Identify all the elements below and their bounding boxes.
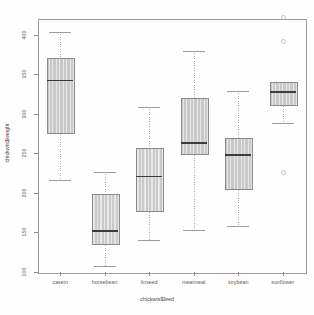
- whisker-cap-lower: [49, 180, 71, 181]
- whisker-lower: [149, 210, 150, 239]
- whisker-cap-upper: [138, 107, 160, 108]
- x-axis-tick: [105, 272, 106, 276]
- y-axis-tick: [34, 74, 38, 75]
- x-axis-tick-label-linseed: linseed: [126, 279, 172, 285]
- whisker-cap-lower: [183, 230, 205, 231]
- whisker-upper: [238, 91, 239, 138]
- y-axis-title: chickwts$weight: [4, 98, 10, 188]
- whisker-lower: [194, 153, 195, 230]
- whisker-upper: [149, 107, 150, 148]
- box-rect: [92, 194, 120, 245]
- whisker-cap-upper: [94, 172, 116, 173]
- box-rect: [47, 58, 75, 134]
- outlier-point: [281, 39, 286, 44]
- y-axis-tick: [34, 153, 38, 154]
- y-axis-tick-label: 200: [21, 183, 27, 203]
- outlier-point: [281, 15, 286, 20]
- y-axis-tick-label: 300: [21, 104, 27, 124]
- x-axis-tick: [283, 272, 284, 276]
- whisker-lower: [238, 188, 239, 226]
- whisker-cap-upper: [183, 51, 205, 52]
- whisker-lower: [60, 132, 61, 180]
- whisker-upper: [194, 51, 195, 98]
- y-axis-tick-label: 150: [21, 222, 27, 242]
- whisker-cap-lower: [272, 123, 294, 124]
- box-rect: [136, 148, 164, 212]
- whisker-cap-lower: [227, 226, 249, 227]
- median-line: [270, 91, 296, 93]
- y-axis-tick: [34, 35, 38, 36]
- y-axis-tick-label: 100: [21, 262, 27, 282]
- median-line: [181, 142, 207, 144]
- y-axis-tick-label: 400: [21, 25, 27, 45]
- plot-frame: [38, 19, 307, 274]
- whisker-cap-upper: [49, 32, 71, 33]
- boxplot-figure: 100150200250300350400 caseinhorsebeanlin…: [0, 0, 314, 315]
- x-axis-tick-label-horsebean: horsebean: [82, 279, 128, 285]
- x-axis-tick: [60, 272, 61, 276]
- whisker-lower: [283, 104, 284, 122]
- x-axis-tick-label-meatmeal: meatmeal: [171, 279, 217, 285]
- x-axis-tick: [194, 272, 195, 276]
- whisker-lower: [105, 243, 106, 266]
- y-axis-tick-label: 250: [21, 143, 27, 163]
- x-axis-tick-label-casein: casein: [37, 279, 83, 285]
- x-axis-tick-label-sunflower: sunflower: [260, 279, 306, 285]
- median-line: [136, 176, 162, 178]
- y-axis-tick: [34, 272, 38, 273]
- whisker-cap-lower: [138, 240, 160, 241]
- x-axis-tick: [238, 272, 239, 276]
- whisker-cap-upper: [227, 91, 249, 92]
- y-axis-tick-label: 350: [21, 64, 27, 84]
- whisker-upper: [105, 172, 106, 194]
- x-axis-title: chickwts$feed: [0, 296, 314, 302]
- box-rect: [225, 138, 253, 191]
- y-axis-tick: [34, 232, 38, 233]
- box-rect: [270, 82, 298, 106]
- x-axis-tick-label-soybean: soybean: [215, 279, 261, 285]
- median-line: [92, 230, 118, 232]
- whisker-upper: [60, 32, 61, 58]
- median-line: [47, 80, 73, 82]
- median-line: [225, 154, 251, 156]
- y-axis-tick: [34, 114, 38, 115]
- whisker-cap-lower: [94, 266, 116, 267]
- y-axis-tick: [34, 193, 38, 194]
- x-axis-tick: [149, 272, 150, 276]
- box-rect: [181, 98, 209, 155]
